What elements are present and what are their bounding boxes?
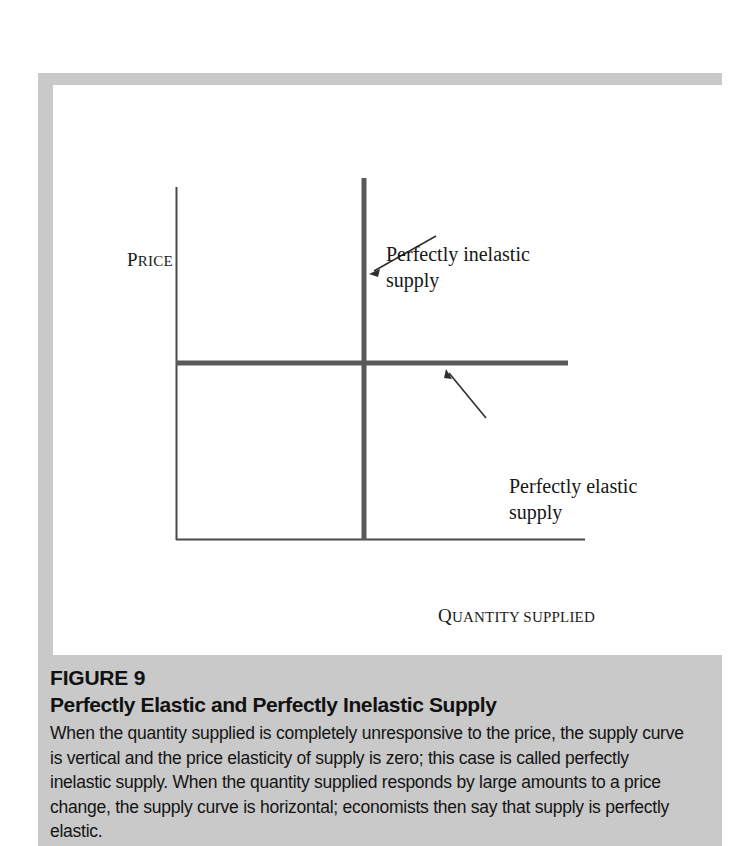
figure-number: FIGURE 9 (50, 665, 710, 690)
inelastic-label-line-1: Perfectly inelastic (386, 241, 530, 267)
inelastic-label-line-2: supply (386, 267, 530, 293)
x-axis-title-initial: Q (438, 605, 452, 626)
figure-description: When the quantity supplied is completely… (50, 721, 690, 844)
y-axis-title: PRICE (127, 249, 173, 271)
figure-root: PRICE QUANTITY SUPPLIED Perfectly inelas… (0, 0, 754, 846)
figure-card: PRICE QUANTITY SUPPLIED Perfectly inelas… (38, 73, 722, 846)
y-axis-title-initial: P (127, 249, 138, 270)
elastic-label-line-1: Perfectly elastic (509, 473, 637, 499)
y-axis-title-smallcaps: RICE (138, 253, 173, 269)
perfectly-elastic-supply-label: Perfectly elastic supply (509, 473, 637, 525)
plot-panel: PRICE QUANTITY SUPPLIED Perfectly inelas… (53, 85, 725, 655)
perfectly-inelastic-supply-label: Perfectly inelastic supply (386, 241, 530, 293)
elastic-label-line-2: supply (509, 499, 637, 525)
plot-area: PRICE QUANTITY SUPPLIED Perfectly inelas… (53, 85, 725, 655)
figure-title: Perfectly Elastic and Perfectly Inelasti… (50, 691, 710, 718)
x-axis-title-smallcaps: UANTITY SUPPLIED (452, 609, 595, 625)
elastic-annotation-arrow (444, 369, 486, 418)
x-axis-title: QUANTITY SUPPLIED (438, 605, 595, 627)
figure-caption: FIGURE 9 Perfectly Elastic and Perfectly… (50, 665, 710, 844)
supply-curve-chart (53, 85, 725, 655)
